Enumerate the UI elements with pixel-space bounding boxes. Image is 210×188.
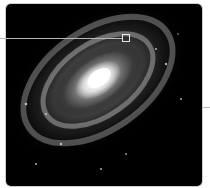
galaxy-image-panel — [6, 4, 202, 186]
figure-description: Grayscale photograph of a face-tilted sp… — [0, 0, 1, 1]
square-marker — [122, 34, 130, 42]
tick-mark — [203, 107, 210, 108]
galaxy-image — [6, 4, 202, 186]
callout-line — [0, 38, 122, 39]
